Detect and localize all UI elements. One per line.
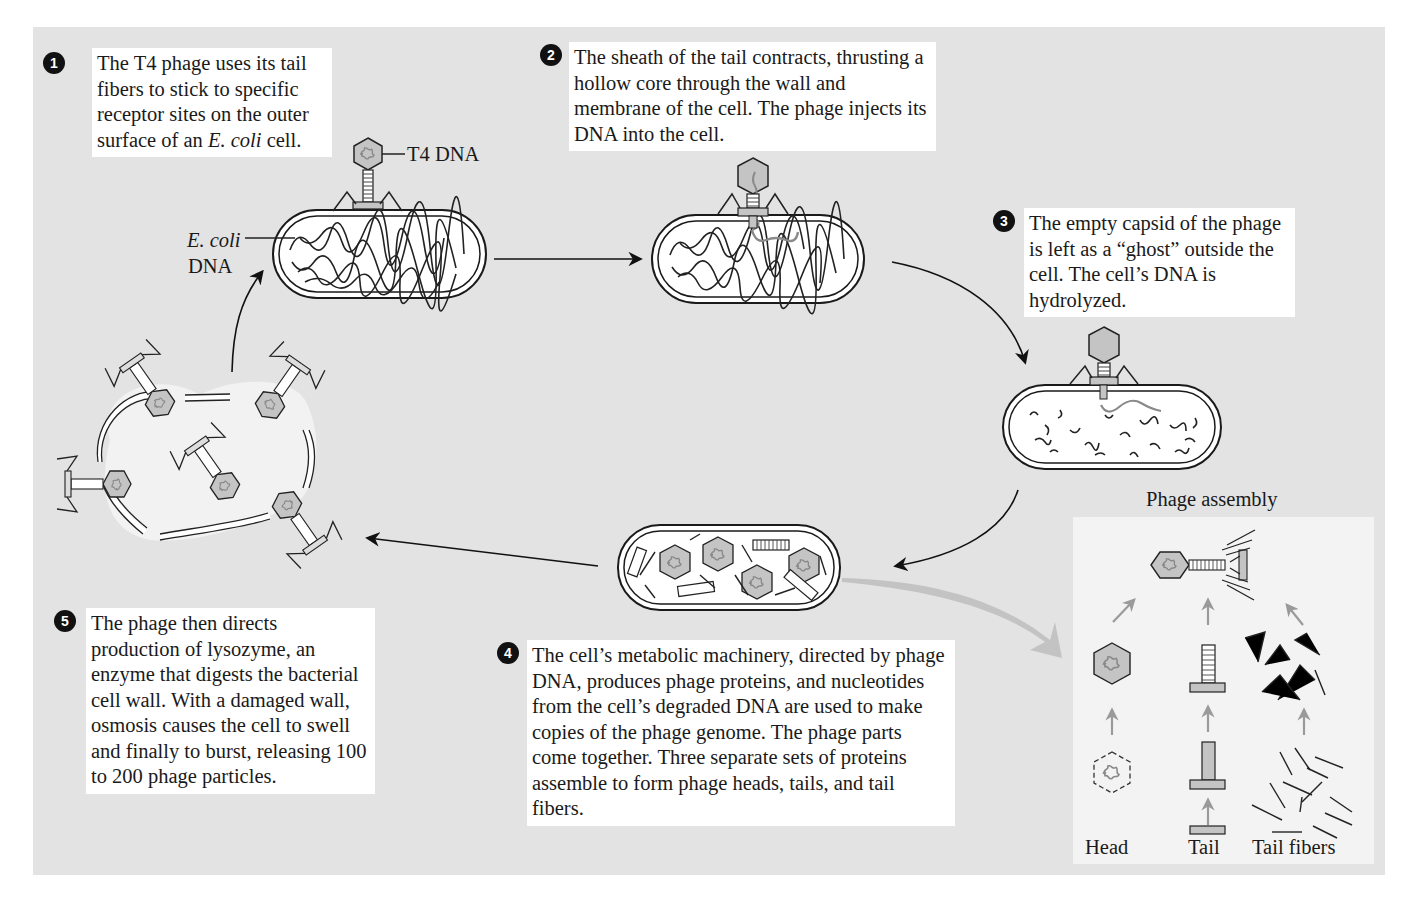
baseplate-icon bbox=[1190, 826, 1225, 834]
assembled-phage-icon bbox=[1151, 530, 1255, 600]
tail-assembled-icon bbox=[1190, 645, 1225, 692]
head-assembled-icon bbox=[1094, 643, 1130, 684]
arrow-step2-to-step3 bbox=[892, 262, 1025, 362]
ecoli-cell-2-icon bbox=[652, 202, 864, 314]
gray-arrow-to-assembly bbox=[842, 578, 1062, 658]
ecoli-cell-3-icon bbox=[1003, 385, 1221, 469]
diagram-illustration bbox=[0, 0, 1415, 902]
ecoli-cell-1-icon bbox=[245, 197, 486, 311]
tail-core-icon bbox=[1190, 742, 1225, 789]
ecoli-cell-4-icon bbox=[618, 525, 840, 610]
t4-phage-attached-icon bbox=[333, 138, 405, 211]
arrow-step5-to-step1 bbox=[232, 272, 262, 372]
tail-fibers-assembled-icon bbox=[1245, 632, 1325, 700]
arrow-step3-to-step4 bbox=[896, 490, 1018, 566]
head-precursor-icon bbox=[1094, 752, 1130, 793]
tail-fibers-loose-icon bbox=[1252, 748, 1352, 838]
arrow-step4-to-step5 bbox=[368, 538, 598, 566]
